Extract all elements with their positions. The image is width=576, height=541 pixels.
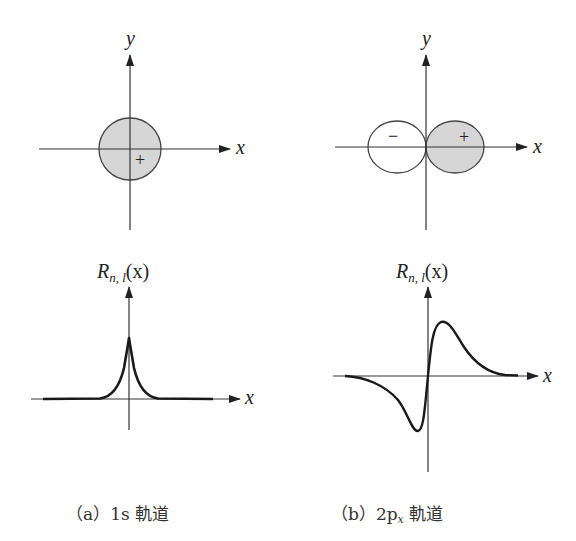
y-axis-label: Rn, l(x) bbox=[96, 260, 149, 285]
y-axis-label: y bbox=[420, 27, 431, 50]
x-axis-label: x bbox=[542, 364, 552, 386]
radial-curve bbox=[43, 338, 213, 399]
panel-a-orbital-diagram: y x + bbox=[39, 27, 245, 230]
y-axis-label: y bbox=[124, 27, 135, 50]
orbital-figure: y x + y x − + Rn, l(x) x Rn, l(x) x （a）1… bbox=[0, 0, 576, 541]
panel-b-orbital-diagram: y x − + bbox=[335, 27, 542, 230]
panel-b-radial-plot: Rn, l(x) x bbox=[333, 260, 552, 472]
minus-sign: − bbox=[388, 126, 398, 146]
y-axis-label: Rn, l(x) bbox=[395, 260, 448, 285]
x-axis-label: x bbox=[532, 135, 542, 157]
plus-sign: + bbox=[459, 127, 469, 147]
caption-b: （b）2px 軌道 bbox=[331, 504, 443, 526]
plus-sign: + bbox=[135, 150, 145, 170]
x-axis-label: x bbox=[235, 136, 245, 158]
caption-a: （a）1s 軌道 bbox=[66, 504, 169, 524]
panel-a-radial-plot: Rn, l(x) x bbox=[31, 260, 254, 430]
x-axis-label: x bbox=[244, 386, 254, 408]
